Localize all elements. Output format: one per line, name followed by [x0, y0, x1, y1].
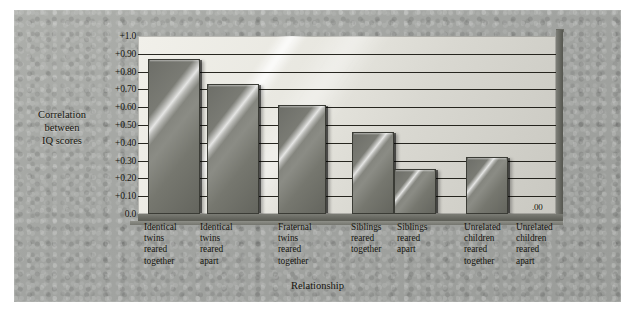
category-label-identical-twins-apart: Identical twins reared apart — [200, 222, 246, 267]
bar-label-unrelated-children-apart: .00 — [532, 202, 543, 212]
plot-area: .00 — [138, 36, 556, 214]
gridline-0-90 — [138, 54, 556, 55]
y-tick-0-80: +0.80 — [100, 67, 136, 77]
y-axis-tick-labels: +1.0 +0.90 +0.80 +0.70 +0.60 +0.50 +0.40… — [100, 36, 136, 214]
y-axis-title: Correlation between IQ scores — [22, 108, 102, 147]
bar-fraternal-twins-together[interactable] — [278, 105, 326, 214]
cat6-line2: reared — [516, 244, 562, 255]
bar-siblings-apart[interactable] — [394, 169, 436, 214]
y-tick-0-40: +0.40 — [100, 138, 136, 148]
gridline-0-40 — [138, 143, 556, 144]
y-tick-0-50: +0.50 — [100, 120, 136, 130]
cat0-line2: reared — [144, 244, 190, 255]
cat6-line1: children — [516, 233, 562, 244]
cat2-line2: reared — [278, 244, 324, 255]
cat0-line0: Identical — [144, 222, 190, 233]
cat6-line0: Unrelated — [516, 222, 562, 233]
y-tick-0-90: +0.90 — [100, 49, 136, 59]
cat6-line3: apart — [516, 256, 562, 267]
y-tick-0-70: +0.70 — [100, 84, 136, 94]
cat2-line0: Fraternal — [278, 222, 324, 233]
bar-unrelated-children-together[interactable] — [466, 157, 508, 214]
y-tick-0-30: +0.30 — [100, 156, 136, 166]
gridline-0-60 — [138, 107, 556, 108]
cat4-line1: reared — [397, 233, 441, 244]
y-tick-0-0: 0.0 — [100, 209, 136, 219]
cat3-line1: reared — [351, 233, 395, 244]
cat4-line0: Siblings — [397, 222, 441, 233]
category-label-fraternal-twins-together: Fraternal twins reared together — [278, 222, 324, 267]
bar-identical-twins-apart[interactable] — [207, 84, 259, 214]
cat2-line1: twins — [278, 233, 324, 244]
cat5-line0: Unrelated — [464, 222, 510, 233]
gridline-0-50 — [138, 125, 556, 126]
right-wall — [556, 30, 563, 214]
category-label-siblings-apart: Siblings reared apart — [397, 222, 441, 256]
y-axis-title-line-3: IQ scores — [22, 134, 102, 147]
y-axis-title-line-2: between — [22, 121, 102, 134]
chart-figure: Correlation between IQ scores +1.0 +0.90… — [0, 0, 635, 313]
cat2-line3: together — [278, 256, 324, 267]
x-axis-title: Relationship — [0, 280, 635, 291]
y-tick-0-20: +0.20 — [100, 173, 136, 183]
cat1-line2: reared — [200, 244, 246, 255]
cat0-line1: twins — [144, 233, 190, 244]
gridline-0-70 — [138, 89, 556, 90]
cat0-line3: together — [144, 256, 190, 267]
category-label-siblings-together: Siblings reared together — [351, 222, 395, 256]
y-tick-0-60: +0.60 — [100, 102, 136, 112]
cat3-line0: Siblings — [351, 222, 395, 233]
cat4-line2: apart — [397, 244, 441, 255]
y-tick-0-10: +0.10 — [100, 191, 136, 201]
bar-identical-twins-together[interactable] — [148, 59, 200, 214]
x-axis-category-labels: Identical twins reared together Identica… — [138, 222, 563, 274]
category-label-identical-twins-together: Identical twins reared together — [144, 222, 190, 267]
y-tick-1-0: +1.0 — [100, 31, 136, 41]
cat5-line3: together — [464, 256, 510, 267]
cat5-line1: children — [464, 233, 510, 244]
gridline-0-80 — [138, 72, 556, 73]
y-axis-title-line-1: Correlation — [22, 108, 102, 121]
bar-siblings-together[interactable] — [352, 132, 394, 214]
cat1-line0: Identical — [200, 222, 246, 233]
cat3-line2: together — [351, 244, 395, 255]
cat1-line3: apart — [200, 256, 246, 267]
cat1-line1: twins — [200, 233, 246, 244]
cat5-line2: reared — [464, 244, 510, 255]
category-label-unrelated-children-together: Unrelated children reared together — [464, 222, 510, 267]
category-label-unrelated-children-apart: Unrelated children reared apart — [516, 222, 562, 267]
